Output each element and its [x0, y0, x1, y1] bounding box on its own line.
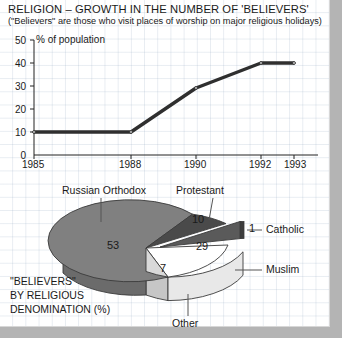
pie-value-protestant: 10: [192, 213, 204, 225]
data-point-1990: [195, 87, 198, 90]
page-shadow-bottom: [0, 327, 342, 338]
pie-caption-line-3: DENOMINATION (%): [10, 303, 110, 315]
pie-value-catholic: 1: [249, 222, 255, 234]
pie-caption-line-2: BY RELIGIOUS: [10, 289, 84, 301]
data-point-1992: [260, 62, 263, 65]
x-tick-1993: 1993: [284, 159, 306, 170]
pie-value-muslim: 29: [196, 240, 208, 252]
pie-label-protestant: Protestant: [176, 184, 224, 196]
figure-subtitle: ("Believers" are those who visit places …: [8, 16, 322, 26]
pie-value-other: 7: [160, 262, 166, 274]
pie-caption-line-1: "BELIEVERS": [10, 275, 76, 287]
x-tick-1985: 1985: [22, 159, 44, 170]
pie-label-catholic: Catholic: [266, 223, 304, 235]
x-tick-1990: 1990: [184, 159, 206, 170]
leader-line-protestant: [209, 198, 213, 220]
line-chart-plot: [0, 33, 330, 165]
data-point-1993: [293, 62, 296, 65]
pie-value-orthodox: 53: [107, 239, 119, 251]
data-series-believers: [34, 63, 294, 132]
figure-title: RELIGION – GROWTH IN THE NUMBER OF 'BELI…: [8, 3, 309, 15]
pie-label-orthodox: Russian Orthodox: [62, 184, 146, 196]
x-tick-1992: 1992: [249, 159, 271, 170]
page-shadow-right: [330, 0, 342, 338]
figure-page: RELIGION – GROWTH IN THE NUMBER OF 'BELI…: [0, 0, 342, 338]
pie-label-muslim: Muslim: [266, 263, 299, 275]
data-point-1985: [33, 131, 36, 134]
line-chart: % of population 50 40 30 20 10 0: [0, 33, 330, 165]
data-point-1988: [130, 131, 133, 134]
x-tick-1988: 1988: [119, 159, 141, 170]
pie-chart: Russian Orthodox Protestant Catholic Mus…: [0, 170, 330, 327]
